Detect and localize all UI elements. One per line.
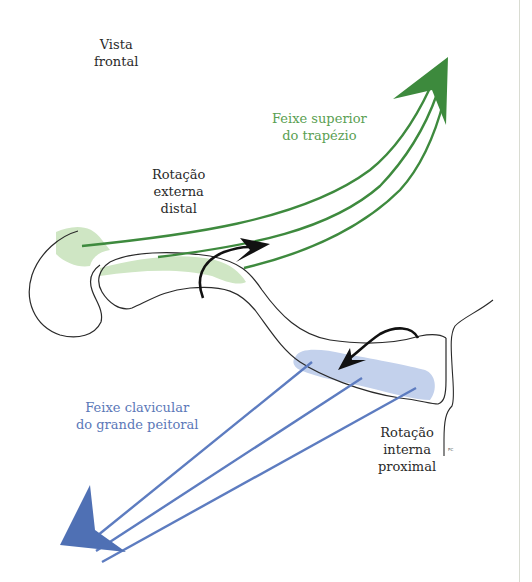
pectoralis-insertion-area [293, 350, 434, 400]
external-rotation-arrowhead [236, 238, 270, 262]
upper-trapezius-line-1: Feixe superior [272, 110, 367, 127]
clavicular-pectoralis-line-2: do grande peitoral [76, 416, 198, 433]
external-rotation-label: Rotação externa distal [152, 166, 205, 217]
trapezius-insertion-area-lateral [100, 256, 246, 283]
upper-trapezius-label: Feixe superior do trapézio [272, 110, 367, 144]
sternum-outline [444, 300, 493, 456]
view-label-line-2: frontal [94, 53, 138, 70]
internal-rotation-line-3: proximal [378, 458, 436, 475]
clavicular-pectoralis-line-1: Feixe clavicular [76, 399, 198, 416]
internal-rotation-line-2: interna [378, 441, 436, 458]
upper-trapezius-line-2: do trapézio [272, 127, 367, 144]
external-rotation-line-3: distal [152, 200, 205, 217]
corner-mark: PC [448, 447, 453, 452]
view-label-line-1: Vista [94, 36, 138, 53]
internal-rotation-line-1: Rotação [378, 424, 436, 441]
clavicular-pectoralis-label: Feixe clavicular do grande peitoral [76, 399, 198, 433]
pectoralis-fiber-1 [92, 362, 312, 540]
pectoralis-arrowhead [60, 485, 126, 552]
trapezius-fiber-1 [82, 88, 430, 246]
clavicle-diagram [0, 0, 532, 582]
internal-rotation-label: Rotação interna proximal [378, 424, 436, 475]
view-label: Vista frontal [94, 36, 138, 70]
external-rotation-line-1: Rotação [152, 166, 205, 183]
external-rotation-line-2: externa [152, 183, 205, 200]
